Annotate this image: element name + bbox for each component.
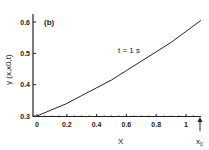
x-tick-label: 1: [184, 121, 188, 128]
tick-labels: 00.20.40.60.810.30.40.50.6: [20, 19, 188, 129]
x-tick-label: 0.2: [62, 121, 72, 128]
x-tick-label: 0.6: [122, 121, 132, 128]
y-tick-label: 0.6: [20, 19, 30, 26]
chart: 00.20.40.60.810.30.40.50.6 (b) t = 1 s X…: [0, 0, 209, 150]
x-tick-label: 0.4: [92, 121, 102, 128]
y-tick-label: 0.5: [20, 50, 30, 57]
data-line: [37, 20, 201, 116]
tick-marks: [33, 22, 193, 116]
y-tick-label: 0.3: [20, 113, 30, 120]
series-annotation: t = 1 s: [118, 46, 140, 55]
y-axis-label: γ (x,x0,t): [4, 54, 13, 85]
x-tick-label: 0.8: [151, 121, 161, 128]
x-axis-label: X: [118, 137, 124, 146]
y-tick-label: 0.4: [20, 81, 30, 88]
x-tick-label: 0: [35, 121, 39, 128]
panel-label: (b): [44, 18, 55, 27]
x0-marker-arrow-icon: [198, 117, 203, 131]
x0-marker-label: x0: [196, 137, 203, 147]
